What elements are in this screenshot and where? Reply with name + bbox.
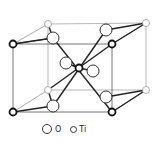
oxygen-atom	[47, 100, 59, 112]
titanium-atom	[45, 21, 52, 28]
legend-label-titanium: Ti	[79, 125, 86, 134]
titanium-atom	[45, 87, 52, 94]
large-circle-icon	[42, 124, 52, 134]
small-circle-icon	[70, 126, 77, 133]
titanium-atom	[143, 87, 150, 94]
legend-item-oxygen: O	[42, 124, 61, 134]
titanium-atom-center	[76, 65, 83, 72]
legend-item-titanium: Ti	[70, 125, 86, 134]
legend-label-oxygen: O	[55, 125, 61, 134]
oxygen-atom	[60, 57, 72, 69]
oxygen-atom	[100, 91, 112, 103]
titanium-atom	[10, 41, 17, 48]
titanium-atom	[143, 20, 150, 27]
oxygen-atom	[47, 32, 59, 44]
titanium-atom	[109, 109, 116, 116]
titanium-atom	[10, 109, 17, 116]
legend: O Ti	[42, 122, 95, 136]
oxygen-atom	[87, 65, 99, 77]
oxygen-atom	[100, 24, 112, 36]
titanium-atom	[109, 41, 116, 48]
